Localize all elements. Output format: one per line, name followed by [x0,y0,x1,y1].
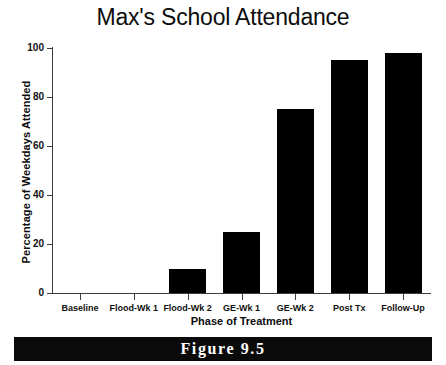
figure-caption-text: Figure 9.5 [180,340,265,358]
x-axis-tick [242,294,243,300]
y-axis-tick-label: 100 [4,43,44,53]
page-title: Max's School Attendance [0,4,446,31]
x-axis-tick [403,294,404,300]
plot-area [53,48,430,293]
y-axis-tick-label: 0 [4,288,44,298]
x-axis-tick [188,294,189,300]
x-axis-tick-label: GE-Wk 2 [268,303,322,313]
x-axis-tick-label: Baseline [53,303,107,313]
x-axis-tick [349,294,350,300]
bar [223,232,260,293]
y-axis-tick-label: 20 [4,239,44,249]
bar [277,109,314,293]
y-axis-tick [47,293,53,294]
bar [331,60,368,293]
x-axis-tick [80,294,81,300]
x-axis-tick [134,294,135,300]
x-axis-tick [295,294,296,300]
x-axis-tick-label: Follow-Up [376,303,430,313]
figure-caption-band: Figure 9.5 [14,337,432,361]
x-axis-title: Phase of Treatment [53,315,430,327]
x-axis-tick-label: Flood-Wk 2 [161,303,215,313]
y-axis-tick-label: 80 [4,92,44,102]
y-axis-tick-label: 40 [4,190,44,200]
y-axis-tick-label: 60 [4,141,44,151]
x-axis-tick-label: Flood-Wk 1 [107,303,161,313]
x-axis-tick-label: Post Tx [322,303,376,313]
bar [385,53,422,293]
x-axis-tick-label: GE-Wk 1 [215,303,269,313]
bar [169,269,206,294]
